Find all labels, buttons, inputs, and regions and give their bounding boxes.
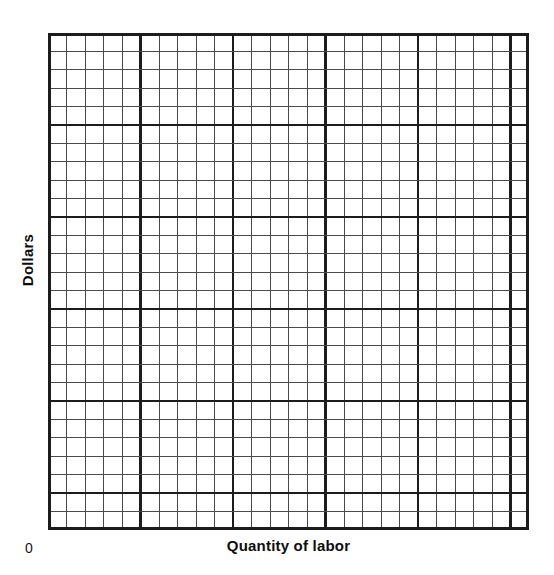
graph-paper-figure: Dollars Quantity of labor 0 [0, 0, 554, 575]
grid-svg [48, 33, 529, 530]
y-axis-label: Dollars [10, 200, 44, 320]
origin-label: 0 [25, 540, 33, 556]
plot-area-grid [48, 33, 529, 530]
x-axis-label: Quantity of labor [48, 537, 529, 554]
